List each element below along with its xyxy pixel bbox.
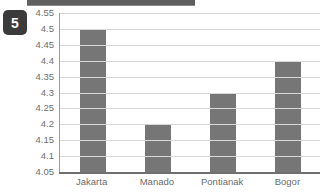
y-axis-tick-label: 4.55 xyxy=(36,8,55,18)
plot-area xyxy=(59,13,320,172)
gridline xyxy=(60,140,320,141)
y-axis-tick-label: 4.05 xyxy=(36,167,55,177)
bar-chart: 4.554.54.454.44.354.34.254.24.154.14.05 … xyxy=(0,8,320,196)
x-axis-tick-label: Jakarta xyxy=(76,177,107,187)
y-axis-tick-label: 4.35 xyxy=(36,72,55,82)
gridline xyxy=(60,61,320,62)
gridline xyxy=(60,156,320,157)
x-axis: JakartaManadoPontianakBogor xyxy=(59,176,320,196)
top-header-strip xyxy=(27,0,195,6)
x-axis-tick-label: Manado xyxy=(140,177,174,187)
gridline xyxy=(60,29,320,30)
gridline xyxy=(60,108,320,109)
y-axis-tick-label: 4.1 xyxy=(41,151,54,161)
y-axis-tick-label: 4.3 xyxy=(41,88,54,98)
gridline xyxy=(60,77,320,78)
gridline xyxy=(60,93,320,94)
bar xyxy=(210,93,236,173)
bar xyxy=(145,124,171,172)
x-axis-tick-label: Bogor xyxy=(275,177,300,187)
y-axis: 4.554.54.454.44.354.34.254.24.154.14.05 xyxy=(0,8,57,173)
y-axis-tick-label: 4.45 xyxy=(36,40,55,50)
x-axis-tick-label: Pontianak xyxy=(201,177,243,187)
y-axis-tick-label: 4.15 xyxy=(36,135,55,145)
gridline xyxy=(60,13,320,14)
y-axis-tick-label: 4.4 xyxy=(41,56,54,66)
x-axis-baseline xyxy=(59,172,320,174)
bar xyxy=(80,29,106,172)
y-axis-tick-label: 4.25 xyxy=(36,104,55,114)
y-axis-tick-label: 4.2 xyxy=(41,120,54,130)
gridline xyxy=(60,124,320,125)
y-axis-tick-label: 4.5 xyxy=(41,24,54,34)
gridline xyxy=(60,45,320,46)
